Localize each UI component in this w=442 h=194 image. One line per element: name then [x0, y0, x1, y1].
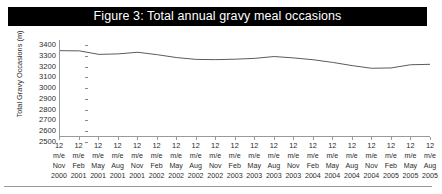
- x-axis-tick-mark: [313, 137, 314, 140]
- x-axis-tick-mark: [430, 137, 431, 140]
- y-axis-tick-label: 3100: [28, 72, 56, 82]
- plot-frame: [59, 40, 430, 137]
- x-axis-tick-mark: [254, 137, 255, 140]
- y-axis-tick-label: 2900: [28, 94, 56, 104]
- x-axis-tick-label-line: 2005: [418, 171, 442, 181]
- x-axis-tick-mark: [274, 137, 275, 140]
- x-axis-tick-mark: [176, 137, 177, 140]
- x-axis-tick-label-line: 12: [418, 141, 442, 151]
- y-axis-tick-label: 3200: [28, 62, 56, 72]
- figure-title: Figure 3: Total annual gravy meal occasi…: [94, 7, 342, 26]
- y-axis-tick-label: 3000: [28, 83, 56, 93]
- x-axis-tick-mark: [196, 137, 197, 140]
- figure-title-bar: Figure 3: Total annual gravy meal occasi…: [8, 7, 427, 26]
- y-axis-tick-label: 3300: [28, 51, 56, 61]
- x-axis-tick-label-line: Aug: [418, 161, 442, 171]
- bottom-divider: [4, 186, 432, 187]
- x-axis-tick-label-line: m/e: [418, 151, 442, 161]
- x-axis-tick-mark: [59, 137, 60, 140]
- x-axis-tick-mark: [352, 137, 353, 140]
- y-axis-tick-label: 3400: [28, 40, 56, 50]
- chart-area: Total Gravy Occasions (m) 34003300320031…: [0, 26, 435, 186]
- x-axis-tick-mark: [118, 137, 119, 140]
- x-axis-tick-mark: [79, 137, 80, 140]
- y-axis-tick-labels: 3400330032003100300029002800270026002500: [28, 34, 56, 138]
- series-line: [60, 51, 430, 69]
- x-axis-tick-mark: [215, 137, 216, 140]
- x-axis-tick-mark: [332, 137, 333, 140]
- x-axis-tick-mark: [157, 137, 158, 140]
- y-axis-tick-label: 2700: [28, 115, 56, 125]
- y-axis-title: Total Gravy Occasions (m): [15, 22, 27, 126]
- y-axis-tick-label: 2600: [28, 126, 56, 136]
- x-axis-tick-mark: [371, 137, 372, 140]
- series-line-svg: [60, 40, 430, 136]
- y-axis-tick-label: 2800: [28, 105, 56, 115]
- x-axis-tick-mark: [410, 137, 411, 140]
- x-axis-tick-label: 12m/eAug2005: [418, 141, 442, 181]
- x-axis-tick-mark: [235, 137, 236, 140]
- x-axis-tick-labels: 12m/eNov200012m/eFeb200112m/eMay200112m/…: [56, 141, 434, 185]
- x-axis-tick-mark: [391, 137, 392, 140]
- x-axis-tick-mark: [293, 137, 294, 140]
- x-axis-tick-mark: [98, 137, 99, 140]
- x-axis-tick-mark: [137, 137, 138, 140]
